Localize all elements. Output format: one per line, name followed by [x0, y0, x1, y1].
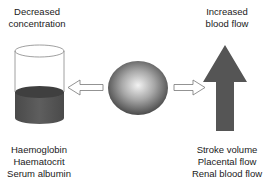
left-arrow-icon	[68, 80, 103, 95]
list-item: Placental flow	[186, 156, 268, 168]
list-item: Haemoglobin	[0, 144, 78, 156]
cylinder-rim	[15, 45, 64, 57]
up-arrow-icon	[203, 45, 247, 131]
right-heading-line: blood flow	[196, 18, 258, 30]
right-heading: Increased blood flow	[196, 6, 258, 30]
left-heading: Decreased concentration	[0, 6, 74, 30]
right-arrow-icon	[174, 80, 205, 95]
list-item: Haematocrit	[0, 156, 78, 168]
list-item: Stroke volume	[186, 144, 268, 156]
cylinder-icon	[15, 45, 64, 124]
list-item: Renal blood flow	[186, 168, 268, 180]
left-heading-line: concentration	[0, 18, 74, 30]
left-heading-line: Decreased	[0, 6, 74, 18]
cylinder-liquid-top	[15, 86, 64, 98]
right-heading-line: Increased	[196, 6, 258, 18]
list-item: Serum albumin	[0, 168, 78, 180]
right-items-list: Stroke volume Placental flow Renal blood…	[186, 144, 268, 180]
left-items-list: Haemoglobin Haematocrit Serum albumin	[0, 144, 78, 180]
sphere-icon	[108, 61, 168, 115]
